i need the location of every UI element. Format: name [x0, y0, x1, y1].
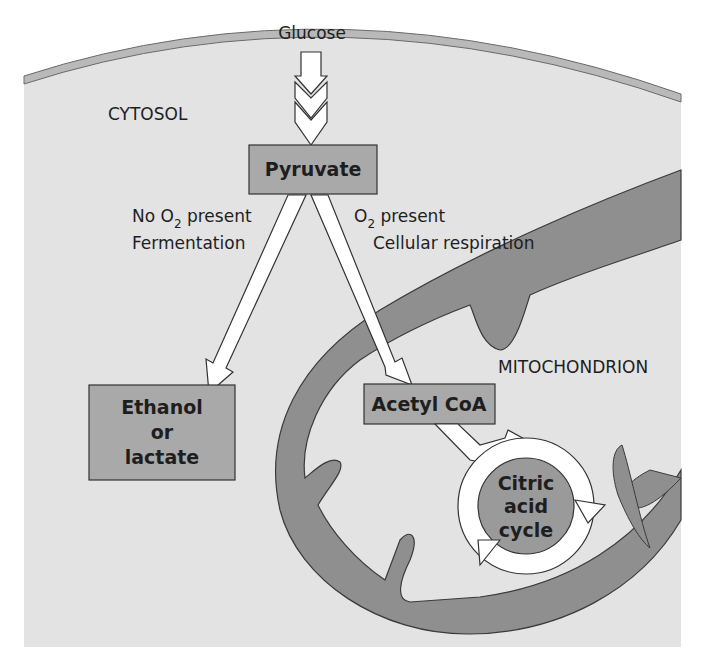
cellular-respiration-diagram: Glucose CYTOSOL Pyruvate No O2 present F… [0, 0, 702, 662]
svg-text:Acetyl CoA: Acetyl CoA [371, 393, 486, 415]
svg-text:Citric: Citric [498, 472, 555, 494]
acetyl-coa-box: Acetyl CoA [364, 384, 495, 424]
svg-text:or: or [151, 421, 174, 443]
pyruvate-label: Pyruvate [265, 158, 362, 180]
fermentation-label: Fermentation [132, 233, 245, 253]
mitochondrion-label: MITOCHONDRION [498, 357, 648, 377]
glucose-label: Glucose [278, 23, 346, 43]
svg-text:Ethanol: Ethanol [121, 396, 203, 418]
svg-text:cycle: cycle [499, 519, 553, 541]
pyruvate-box: Pyruvate [249, 145, 377, 194]
cytosol-label: CYTOSOL [108, 104, 188, 124]
svg-text:lactate: lactate [125, 446, 199, 468]
cellular-respiration-label: Cellular respiration [373, 233, 535, 253]
ethanol-lactate-box: Ethanol or lactate [89, 385, 235, 480]
svg-text:acid: acid [504, 495, 548, 517]
